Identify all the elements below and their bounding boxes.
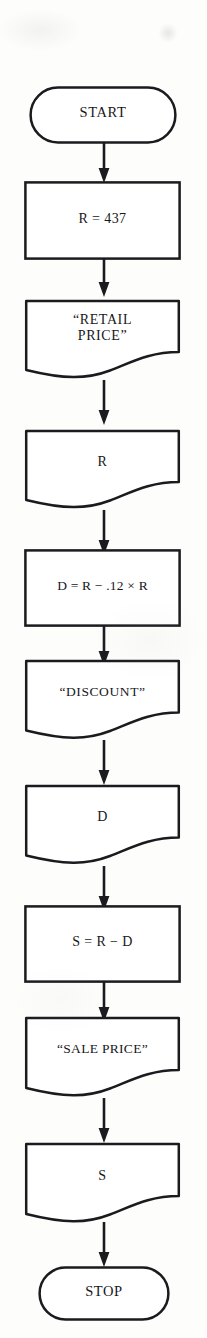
node-stop[interactable]: STOP	[38, 1266, 170, 1321]
connector-print-discount-to-output-d	[97, 740, 111, 786]
connector-print-retail-to-output-r	[97, 380, 111, 426]
connector-output-s-to-stop	[97, 1222, 111, 1268]
connector-assign-r-to-print-retail	[97, 259, 111, 298]
node-print-sale[interactable]: “SALE PRICE”	[24, 1016, 181, 1101]
flowchart-page: START R = 437 “RETAIL PRICE” R D = R − .…	[0, 0, 207, 1338]
node-start[interactable]: START	[29, 86, 177, 144]
node-output-d[interactable]: D	[24, 784, 181, 868]
node-print-discount[interactable]: “DISCOUNT”	[24, 659, 181, 743]
connector-start-to-assign-r	[97, 142, 111, 184]
node-compute-d[interactable]: D = R − .12 × R	[24, 549, 181, 627]
connector-print-sale-to-output-s	[97, 1098, 111, 1144]
node-print-retail[interactable]: “RETAIL PRICE”	[24, 299, 181, 382]
node-output-r[interactable]: R	[24, 429, 181, 512]
node-compute-s[interactable]: S = R − D	[24, 905, 181, 983]
node-assign-r[interactable]: R = 437	[24, 181, 181, 260]
node-output-s[interactable]: S	[24, 1142, 181, 1227]
